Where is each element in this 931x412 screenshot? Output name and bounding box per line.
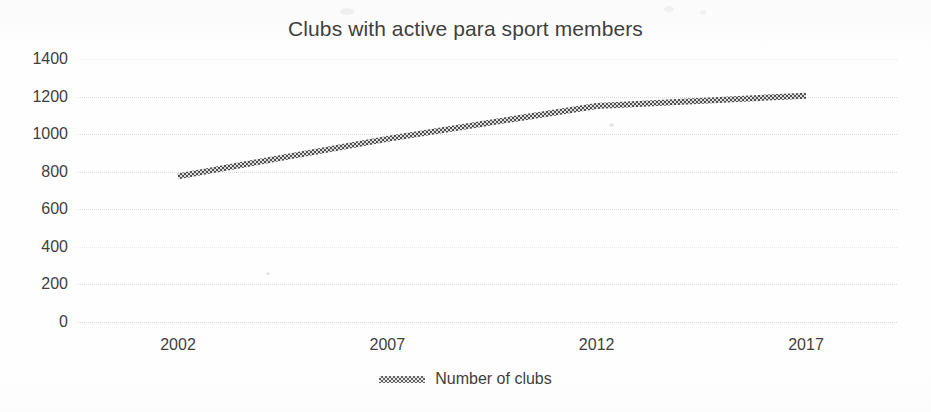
chart-title: Clubs with active para sport members [0,17,931,41]
y-axis-tick-label: 1400 [8,50,68,68]
x-axis-tick-label: 2017 [766,336,846,354]
y-axis-tick-label: 600 [8,200,68,218]
x-axis-tick-label: 2007 [347,336,427,354]
y-axis-tick-label: 1200 [8,88,68,106]
y-axis-tick-label: 400 [8,238,68,256]
x-axis-tick-label: 2002 [138,336,218,354]
gridline [78,322,897,323]
y-axis-tick-label: 1000 [8,125,68,143]
legend-label-number-of-clubs: Number of clubs [435,370,552,388]
y-axis-tick-label: 800 [8,163,68,181]
scan-speck [609,123,614,127]
chart-container: Clubs with active para sport members 140… [0,0,931,412]
plot-area [78,59,897,322]
scan-speck [664,6,674,12]
series-line-number-of-clubs [78,59,897,322]
scan-speck [266,272,270,275]
y-axis-tick-label: 0 [8,313,68,331]
chart-legend: Number of clubs [0,370,931,388]
y-axis-tick-label: 200 [8,275,68,293]
y-axis-tick-labels: 1400120010008006004002000 [0,59,68,322]
scan-speck [700,10,706,15]
legend-marker-icon [379,376,425,383]
scan-speck [340,8,354,15]
x-axis-tick-label: 2012 [557,336,637,354]
